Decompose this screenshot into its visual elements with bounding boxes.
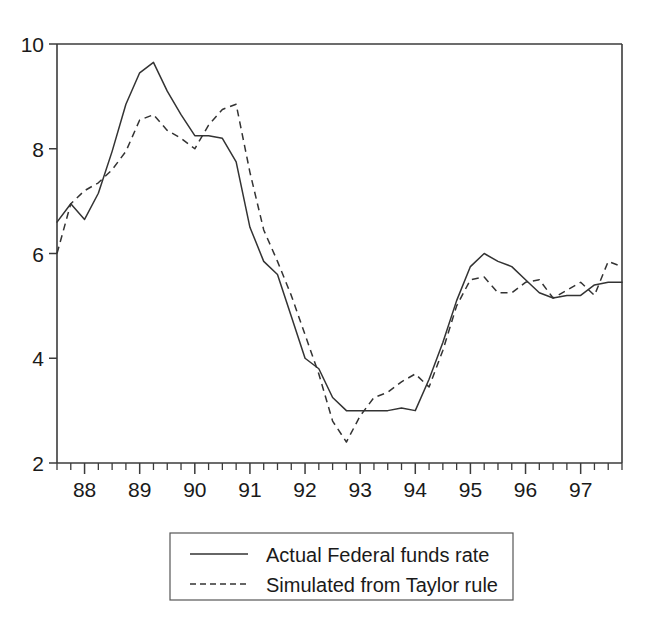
x-tick-label: 91 (238, 478, 261, 501)
chart-legend: Actual Federal funds rateSimulated from … (170, 533, 513, 600)
x-tick-label: 94 (404, 478, 428, 501)
x-tick-label: 93 (348, 478, 371, 501)
chart-figure: 24681088899091929394959697 Actual Federa… (0, 0, 657, 626)
x-tick-label: 95 (459, 478, 482, 501)
x-tick-label: 88 (73, 478, 96, 501)
chart-axes (57, 44, 622, 463)
x-tick-label: 92 (293, 478, 316, 501)
x-tick-label: 96 (514, 478, 537, 501)
x-tick-label: 90 (183, 478, 206, 501)
y-tick-label: 6 (32, 243, 44, 266)
y-tick-label: 4 (32, 347, 44, 370)
y-tick-label: 8 (32, 138, 44, 161)
legend-label: Simulated from Taylor rule (266, 574, 498, 596)
x-tick-label: 97 (569, 478, 592, 501)
y-tick-label: 10 (21, 33, 44, 56)
chart-series (57, 62, 622, 442)
x-tick-label: 89 (128, 478, 151, 501)
y-tick-label: 2 (32, 452, 44, 475)
series-line-actual-fed-funds-rate (57, 62, 622, 410)
legend-label: Actual Federal funds rate (266, 544, 489, 566)
line-chart: 24681088899091929394959697 Actual Federa… (0, 0, 657, 626)
chart-ticks (49, 44, 622, 474)
series-line-simulated-taylor-rule (57, 104, 622, 442)
chart-tick-labels: 24681088899091929394959697 (21, 33, 593, 501)
